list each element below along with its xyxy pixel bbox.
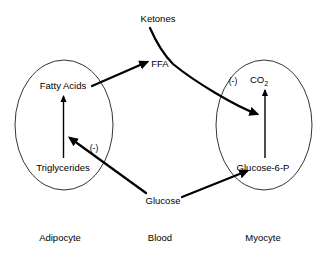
node-label-ketones: Ketones (141, 13, 176, 24)
node-label-glucose-6-p: Glucose-6-P (237, 162, 290, 173)
metabolic-flow-diagram: Ketones FFA Glucose Fatty Acids Triglyce… (0, 0, 320, 258)
co2-formula-base: CO (250, 74, 264, 85)
edge-ketones-inhibit-glucose-oxidation (150, 28, 257, 114)
node-label-glucose: Glucose (146, 195, 181, 206)
diagram-canvas: Ketones FFA Glucose Fatty Acids Triglyce… (0, 0, 320, 258)
inhibition-sign-adipocyte: (-) (90, 143, 99, 153)
node-label-triglycerides: Triglycerides (36, 162, 90, 173)
node-label-co2: CO2 (250, 74, 268, 87)
edge-fatty-acids-to-ffa (92, 62, 147, 86)
node-label-fatty-acids: Fatty Acids (40, 80, 87, 91)
compartment-label-myocyte: Myocyte (245, 232, 280, 243)
co2-formula-subscript: 2 (264, 80, 268, 87)
inhibition-sign-myocyte: (-) (229, 76, 238, 86)
edge-glucose-to-glucose-6-p (182, 171, 247, 197)
node-label-ffa: FFA (151, 58, 169, 69)
compartment-label-adipocyte: Adipocyte (39, 232, 81, 243)
compartment-label-blood: Blood (148, 232, 172, 243)
